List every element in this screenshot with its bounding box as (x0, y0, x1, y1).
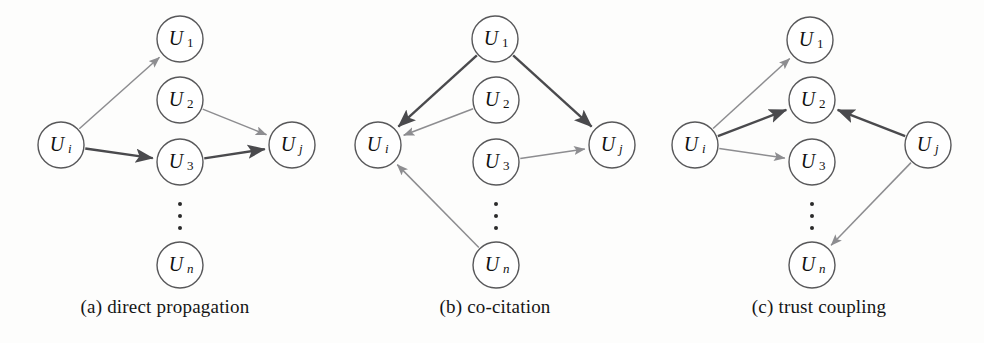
node-c-u1[interactable]: U1 (787, 17, 833, 63)
edge-a-ui-to-u3 (85, 148, 153, 158)
edge-a-ui-to-u1 (79, 57, 159, 128)
node-label: U (169, 88, 185, 110)
node-c-ui[interactable]: Ui (672, 122, 718, 168)
node-label: U (169, 27, 185, 49)
node-c-u3[interactable]: U3 (789, 139, 835, 185)
panel-a-ellipsis-dots (178, 202, 182, 230)
node-subscript: i (385, 141, 389, 156)
node-label: U (169, 253, 185, 275)
edge-c-ui-to-u3 (719, 149, 785, 159)
node-b-ui[interactable]: Ui (355, 122, 401, 168)
node-a-ui[interactable]: Ui (38, 122, 84, 168)
node-c-un[interactable]: Un (789, 242, 835, 288)
node-label: U (799, 28, 815, 50)
node-subscript: 2 (819, 96, 826, 111)
node-label: U (601, 133, 617, 155)
panel-c-ellipsis-dots (810, 202, 814, 230)
panel-a-caption: (a) direct propagation (0, 296, 330, 318)
node-subscript: n (187, 261, 194, 276)
panel-a-nodes: UiU1U2U3UnUj (38, 16, 315, 288)
node-b-u1[interactable]: U1 (472, 16, 518, 62)
node-label: U (485, 150, 501, 172)
node-subscript: i (702, 141, 706, 156)
node-subscript: 1 (817, 36, 824, 51)
edge-c-uj-to-u2 (838, 110, 906, 136)
panel-b-nodes: UiU1U2U3UnUj (355, 16, 635, 288)
panel-c-caption: (c) trust coupling (654, 296, 984, 318)
node-subscript: n (503, 261, 510, 276)
node-subscript: 2 (503, 96, 510, 111)
node-subscript: i (68, 141, 72, 156)
node-a-u1[interactable]: U1 (157, 16, 203, 62)
edge-a-u3-to-uj (204, 149, 265, 158)
node-c-uj[interactable]: Uj (905, 122, 951, 168)
node-label: U (801, 253, 817, 275)
node-label: U (484, 27, 500, 49)
node-label: U (169, 150, 185, 172)
node-subscript: 1 (502, 35, 509, 50)
node-label: U (485, 88, 501, 110)
node-label: U (50, 133, 66, 155)
node-label: U (801, 88, 817, 110)
node-a-uj[interactable]: Uj (269, 122, 315, 168)
node-subscript: 3 (819, 158, 826, 173)
diagram-canvas: UiU1U2U3UnUjUiU1U2U3UnUjUiU1U2U3UnUj (0, 0, 984, 343)
node-label: U (801, 150, 817, 172)
node-subscript: n (819, 261, 826, 276)
figure-trust-propagation: UiU1U2U3UnUjUiU1U2U3UnUjUiU1U2U3UnUj(a) … (0, 0, 984, 343)
node-subscript: 3 (503, 158, 510, 173)
panel-b-ellipsis-dots (494, 202, 498, 230)
node-a-u2[interactable]: U2 (157, 77, 203, 123)
node-b-uj[interactable]: Uj (589, 122, 635, 168)
node-subscript: 3 (187, 158, 194, 173)
node-b-un[interactable]: Un (473, 242, 519, 288)
edge-b-u1-to-ui (398, 55, 476, 126)
node-a-un[interactable]: Un (157, 242, 203, 288)
node-label: U (917, 133, 933, 155)
node-b-u3[interactable]: U3 (473, 139, 519, 185)
node-label: U (684, 133, 700, 155)
edge-b-un-to-ui (397, 165, 479, 248)
edge-b-u3-to-uj (520, 149, 585, 158)
edge-b-u1-to-uj (513, 55, 591, 126)
node-label: U (485, 253, 501, 275)
node-subscript: 1 (187, 35, 194, 50)
edge-c-uj-to-un (831, 163, 911, 246)
panel-c-nodes: UiU1U2U3UnUj (672, 17, 951, 288)
panel-b-caption: (b) co-citation (330, 296, 660, 318)
node-label: U (367, 133, 383, 155)
edge-c-ui-to-u1 (713, 59, 790, 129)
node-a-u3[interactable]: U3 (157, 139, 203, 185)
node-b-u2[interactable]: U2 (473, 77, 519, 123)
node-subscript: 2 (187, 96, 194, 111)
edge-a-u2-to-uj (203, 109, 267, 135)
node-c-u2[interactable]: U2 (789, 77, 835, 123)
node-label: U (281, 133, 297, 155)
